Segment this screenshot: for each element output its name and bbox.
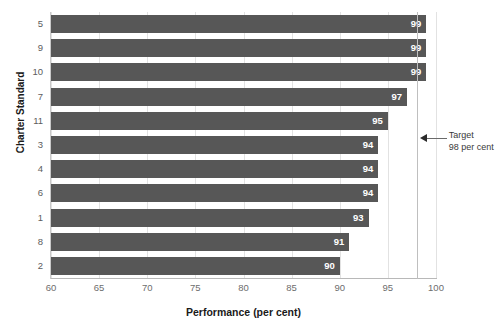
y-axis-tick-label: 7: [3, 88, 43, 106]
bar-row[interactable]: 91: [51, 233, 436, 251]
x-axis-title: Performance (per cent): [51, 306, 436, 318]
bar-value-label: 94: [51, 160, 373, 178]
y-axis-tick-label: 8: [3, 233, 43, 251]
bar-row[interactable]: 99: [51, 63, 436, 81]
bar-value-label: 94: [51, 136, 373, 154]
bar-value-label: 91: [51, 233, 344, 251]
y-axis-tick-label: 1: [3, 209, 43, 227]
y-axis-tick-label: 9: [3, 39, 43, 57]
x-axis-tick-label: 100: [416, 282, 456, 293]
target-reference-line: [417, 12, 418, 279]
bar-row[interactable]: 94: [51, 184, 436, 202]
x-axis-tick-label: 85: [272, 282, 312, 293]
bar-value-label: 93: [51, 209, 364, 227]
x-axis-tick-label: 80: [224, 282, 264, 293]
x-axis-tick-label: 90: [320, 282, 360, 293]
y-axis-tick-label: 2: [3, 257, 43, 275]
bar-row[interactable]: 93: [51, 209, 436, 227]
bar-row[interactable]: 97: [51, 88, 436, 106]
bar-value-label: 94: [51, 184, 373, 202]
bar-value-label: 99: [51, 63, 421, 81]
bar-value-label: 97: [51, 88, 402, 106]
y-axis-tick-label: 11: [3, 112, 43, 130]
y-axis-tick-label: 6: [3, 184, 43, 202]
target-annotation-text: Target 98 per cent: [449, 130, 499, 153]
bar-value-label: 95: [51, 112, 383, 130]
x-axis-tick-label: 65: [79, 282, 119, 293]
x-axis-tick-label: 75: [175, 282, 215, 293]
x-axis-tick-label: 70: [127, 282, 167, 293]
bar-value-label: 99: [51, 15, 421, 33]
bar-row[interactable]: 99: [51, 39, 436, 57]
y-axis-tick-label: 4: [3, 160, 43, 178]
x-axis-tick-label: 60: [31, 282, 71, 293]
bar-row[interactable]: 94: [51, 136, 436, 154]
gridline: [436, 12, 437, 278]
x-axis-line: [51, 278, 437, 279]
bar-value-label: 90: [51, 257, 335, 275]
plot-area: 9999999795949494939190: [51, 12, 436, 278]
annotation-leader-line: [427, 138, 447, 139]
x-axis-tick-label: 95: [368, 282, 408, 293]
bar-value-label: 99: [51, 39, 421, 57]
left-arrow-icon: [420, 134, 427, 142]
y-axis-tick-label: 10: [3, 63, 43, 81]
target-annotation-line2: 98 per cent: [449, 142, 499, 154]
bar-row[interactable]: 94: [51, 160, 436, 178]
bar-row[interactable]: 99: [51, 15, 436, 33]
y-axis-tick-label: 3: [3, 136, 43, 154]
bar-row[interactable]: 95: [51, 112, 436, 130]
y-axis-tick-label: 5: [3, 15, 43, 33]
bar-series: 9999999795949494939190: [51, 12, 436, 278]
bar-row[interactable]: 90: [51, 257, 436, 275]
target-annotation-line1: Target: [449, 130, 474, 140]
